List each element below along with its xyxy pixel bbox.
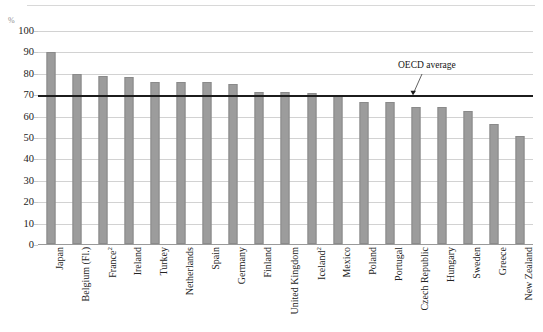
x-axis-label: France2 (107, 247, 118, 278)
footnote-marker: 2 (315, 247, 323, 251)
x-axis-label: Iceland2 (316, 247, 327, 280)
x-axis-label: Spain (211, 247, 221, 270)
x-axis-label: Greece (498, 247, 508, 275)
x-axis-label: Hungary (446, 247, 456, 282)
x-axis-label: Czech Republic (420, 247, 430, 311)
x-axis-label: Germany (237, 247, 247, 284)
x-axis-label: Ireland (133, 247, 143, 275)
x-axis-label: Turkey (159, 247, 169, 276)
x-axis-label: Netherlands (185, 247, 195, 295)
x-axis-category-labels: JapanBelgium (Fl.)France2IrelandTurkeyNe… (38, 247, 533, 332)
x-axis-label: New Zealand (524, 247, 534, 301)
footnote-marker: 2 (106, 247, 114, 251)
chart-figure: % 0102030405060708090100 OECD average Ja… (0, 0, 543, 332)
x-axis-label: Mexico (342, 247, 352, 278)
x-axis-label: Portugal (394, 247, 404, 281)
x-axis-label: Finland (263, 247, 273, 278)
x-axis-label: Sweden (472, 247, 482, 279)
x-axis-label: Poland (368, 247, 378, 275)
x-axis-label: United Kingdom (290, 247, 300, 315)
x-axis-label: Japan (55, 247, 65, 270)
x-axis-label: Belgium (Fl.) (81, 247, 91, 301)
